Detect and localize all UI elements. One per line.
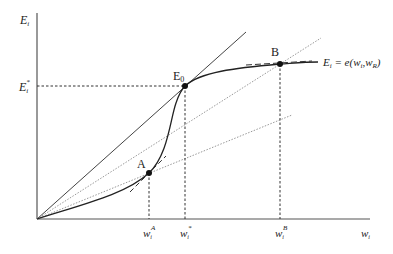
point-a-marker (146, 170, 152, 176)
point-e0-label: E0 (173, 69, 184, 84)
x-tick-w-a: wiA (143, 224, 156, 240)
dotted-ray-through-a (37, 115, 292, 219)
curve-label: Ei = e(wi,wR) (322, 56, 381, 70)
y-tick-e-star: Ei* (18, 78, 30, 95)
effort-wage-diagram: Ei Ei* E0 A B Ei = e(wi,wR) wiA wi* wiB … (0, 0, 393, 254)
point-a-label: A (137, 157, 146, 171)
y-axis-label: Ei (19, 13, 29, 28)
point-b-marker (277, 61, 283, 67)
x-tick-w-b: wiB (275, 224, 288, 240)
solid-ray (37, 32, 246, 219)
x-tick-w-star: wi* (180, 224, 192, 240)
x-axis-label: wi (361, 227, 370, 240)
point-b-label: B (271, 45, 279, 59)
